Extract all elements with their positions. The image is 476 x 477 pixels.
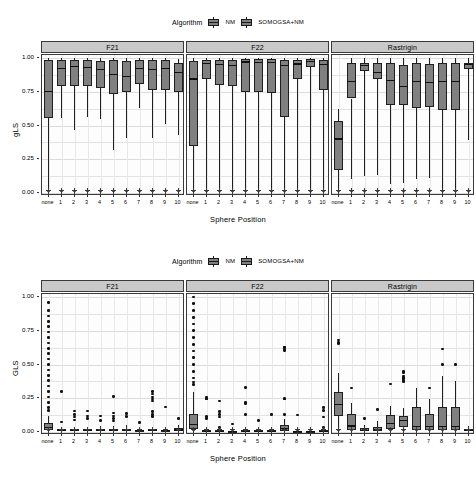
x-axis-label: Sphere Position [0, 454, 476, 463]
x-axis-tick-mark [390, 195, 391, 197]
x-axis-tick-mark [455, 434, 456, 436]
x-axis-tick-mark [245, 195, 246, 197]
y-axis-tick-label: 1.00 [8, 53, 34, 60]
box-axis-marker [467, 188, 470, 194]
x-axis-tick-mark [126, 195, 127, 197]
boxplot [187, 294, 329, 434]
x-axis-tick-mark [193, 434, 194, 436]
x-axis-tick-mark [429, 434, 430, 436]
box-axis-marker [322, 427, 325, 433]
x-axis-tick-mark [87, 434, 88, 436]
outlier-point [177, 417, 180, 420]
facet-strip-label: Rastrigin [331, 41, 474, 53]
facet-strip-label: F21 [41, 41, 184, 53]
x-axis-tick-mark [310, 434, 311, 436]
boxplot-figure: Algorithm NM SOMOGSA+NM gLS0.000.250.500… [0, 0, 476, 477]
x-axis-tick-mark [61, 195, 62, 197]
x-axis-tick-mark [206, 195, 207, 197]
x-axis-tick-mark [403, 434, 404, 436]
y-axis-tick-label: 0.25 [8, 154, 34, 161]
outlier-point [322, 409, 325, 412]
plot-area-bottom: GLS0.000.250.500.751.00Sphere PositionF2… [0, 239, 476, 477]
x-axis-tick-mark [100, 434, 101, 436]
x-axis-tick-mark [416, 434, 417, 436]
x-axis-tick-mark [100, 195, 101, 197]
median-line [174, 72, 182, 73]
outlier-point [322, 416, 325, 419]
y-axis-tick-label: 0.75 [8, 87, 34, 94]
x-axis-tick-mark [377, 434, 378, 436]
x-axis-tick-mark [403, 195, 404, 197]
plot-area-top: gLS0.000.250.500.751.00Sphere PositionF2… [0, 0, 476, 238]
x-axis-tick-mark [152, 434, 153, 436]
x-axis-tick-mark [284, 434, 285, 436]
x-axis-tick-mark [258, 195, 259, 197]
x-axis-tick-mark [165, 434, 166, 436]
facet-panel [41, 54, 184, 195]
x-axis-tick-mark [351, 195, 352, 197]
y-axis-tick-label: 0.00 [8, 427, 34, 434]
x-axis-tick-mark [139, 434, 140, 436]
x-axis-tick-mark [74, 195, 75, 197]
x-axis-tick-mark [113, 434, 114, 436]
x-axis-tick-label: 10 [457, 199, 476, 205]
x-axis-tick-mark [178, 195, 179, 197]
x-axis-tick-mark [232, 434, 233, 436]
x-axis-tick-mark [113, 195, 114, 197]
x-axis-tick-mark [48, 195, 49, 197]
y-axis-tick-label: 0.00 [8, 188, 34, 195]
x-axis-tick-mark [206, 434, 207, 436]
x-axis-tick-mark [429, 195, 430, 197]
y-axis-tick-mark [37, 330, 39, 331]
box [174, 63, 182, 92]
box-axis-marker [467, 427, 470, 433]
facet-panel [186, 54, 329, 195]
whisker-lower [468, 69, 469, 141]
y-axis-tick-mark [37, 125, 39, 126]
y-axis-tick-mark [37, 192, 39, 193]
boxplot [332, 294, 474, 434]
x-axis-tick-mark [193, 195, 194, 197]
y-axis-tick-mark [37, 364, 39, 365]
x-axis-tick-mark [323, 434, 324, 436]
x-axis-tick-mark [219, 195, 220, 197]
facet-panel [331, 54, 474, 195]
x-axis-tick-mark [364, 195, 365, 197]
facet-strip-label: F21 [41, 280, 184, 292]
facet-panel [41, 293, 184, 434]
x-axis-tick-mark [74, 434, 75, 436]
y-axis-tick-label: 0.75 [8, 326, 34, 333]
chart-top-gls: Algorithm NM SOMOGSA+NM gLS0.000.250.500… [0, 0, 476, 238]
facet-strip-label: F22 [186, 280, 329, 292]
x-axis-tick-mark [390, 434, 391, 436]
y-axis-tick-mark [37, 158, 39, 159]
whisker-lower [323, 90, 324, 193]
y-axis-tick-mark [37, 296, 39, 297]
x-axis-tick-mark [271, 434, 272, 436]
facet-strip-label: Rastrigin [331, 280, 474, 292]
y-axis-tick-mark [37, 91, 39, 92]
x-axis-tick-mark [178, 434, 179, 436]
y-axis-tick-label: 1.00 [8, 292, 34, 299]
y-axis-tick-mark [37, 57, 39, 58]
x-axis-tick-mark [48, 434, 49, 436]
x-axis-tick-mark [468, 434, 469, 436]
x-axis-tick-mark [442, 434, 443, 436]
x-axis-tick-mark [232, 195, 233, 197]
y-axis-tick-label: 0.50 [8, 360, 34, 367]
y-axis-tick-mark [37, 397, 39, 398]
x-axis-tick-mark [323, 195, 324, 197]
x-axis-tick-mark [377, 195, 378, 197]
x-axis-tick-mark [297, 434, 298, 436]
facet-panel [186, 293, 329, 434]
x-axis-tick-mark [364, 434, 365, 436]
median-line [319, 64, 327, 65]
x-axis-tick-mark [152, 195, 153, 197]
box-axis-marker [177, 427, 180, 433]
y-axis-tick-mark [37, 431, 39, 432]
x-axis-tick-mark [271, 195, 272, 197]
x-axis-tick-mark [165, 195, 166, 197]
x-axis-tick-mark [219, 434, 220, 436]
x-axis-tick-mark [338, 195, 339, 197]
x-axis-tick-mark [258, 434, 259, 436]
